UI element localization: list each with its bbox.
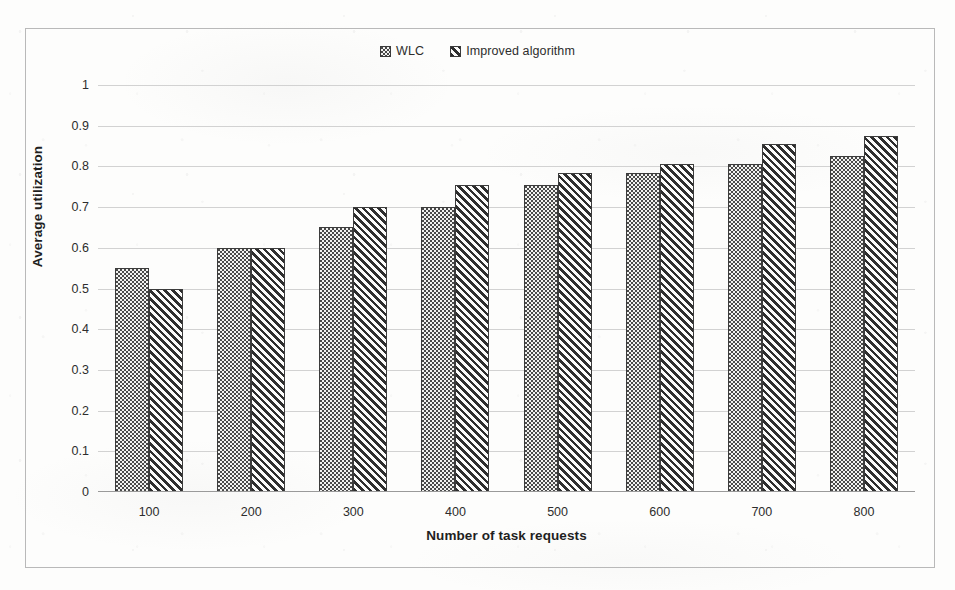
x-axis-line	[98, 491, 915, 492]
x-axis-tick-label: 100	[139, 505, 160, 519]
bar-group: 200	[200, 85, 302, 492]
y-axis-tick-label: 0.9	[72, 119, 89, 133]
bar-improved-algorithm-600[interactable]	[660, 164, 694, 492]
y-axis-tick-label: 0.1	[72, 444, 89, 458]
bar-wlc-600[interactable]	[626, 173, 660, 492]
y-axis-tick-label: 0.5	[72, 282, 89, 296]
bar-improved-algorithm-700[interactable]	[762, 144, 796, 492]
chart-legend: WLC Improved algorithm	[0, 44, 955, 58]
bar-improved-algorithm-100[interactable]	[149, 289, 183, 493]
bar-wlc-400[interactable]	[421, 207, 455, 492]
legend-label-improved-algorithm: Improved algorithm	[466, 44, 575, 58]
bar-wlc-100[interactable]	[115, 268, 149, 492]
bar-wlc-800[interactable]	[830, 156, 864, 492]
x-axis-title: Number of task requests	[98, 528, 915, 543]
y-axis-tick-label: 0.7	[72, 200, 89, 214]
bar-group: 500	[507, 85, 609, 492]
legend-swatch-hatch-icon	[450, 46, 461, 57]
bar-group: 300	[302, 85, 404, 492]
bar-improved-algorithm-500[interactable]	[558, 173, 592, 492]
y-axis-title: Average utilization	[30, 107, 45, 307]
y-axis-tick-label: 0.2	[72, 404, 89, 418]
bar-improved-algorithm-300[interactable]	[353, 207, 387, 492]
bar-group: 100	[98, 85, 200, 492]
bar-improved-algorithm-400[interactable]	[455, 185, 489, 492]
bar-groups: 100200300400500600700800	[98, 85, 915, 492]
legend-item-improved-algorithm: Improved algorithm	[450, 44, 575, 58]
bar-improved-algorithm-800[interactable]	[864, 136, 898, 492]
bar-wlc-300[interactable]	[319, 227, 353, 492]
bar-group: 400	[404, 85, 506, 492]
y-axis-tick-label: 0.8	[72, 159, 89, 173]
bar-wlc-500[interactable]	[524, 185, 558, 492]
plot-area: 10.90.80.70.60.50.40.30.20.10 1002003004…	[98, 85, 915, 492]
legend-swatch-dots-icon	[380, 46, 391, 57]
legend-label-wlc: WLC	[396, 44, 424, 58]
x-axis-tick-label: 600	[649, 505, 670, 519]
y-axis-tick-label: 0.3	[72, 363, 89, 377]
x-axis-tick-label: 800	[854, 505, 875, 519]
x-axis-tick-label: 400	[445, 505, 466, 519]
x-axis-tick-label: 300	[343, 505, 364, 519]
bar-group: 600	[609, 85, 711, 492]
bar-wlc-200[interactable]	[217, 248, 251, 492]
x-axis-tick-label: 200	[241, 505, 262, 519]
y-axis-tick-label: 0.6	[72, 241, 89, 255]
x-axis-tick-label: 700	[751, 505, 772, 519]
bar-improved-algorithm-200[interactable]	[251, 248, 285, 492]
legend-item-wlc: WLC	[380, 44, 424, 58]
y-axis-tick-label: 0	[82, 485, 89, 499]
bar-group: 700	[711, 85, 813, 492]
bar-group: 800	[813, 85, 915, 492]
bar-wlc-700[interactable]	[728, 164, 762, 492]
y-axis-tick-label: 1	[82, 78, 89, 92]
y-axis-tick-label: 0.4	[72, 322, 89, 336]
chart-figure: WLC Improved algorithm Average utilizati…	[0, 0, 955, 590]
x-axis-tick-label: 500	[547, 505, 568, 519]
